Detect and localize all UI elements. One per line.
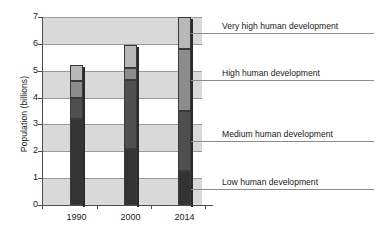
bar-1990[interactable] bbox=[70, 0, 83, 188]
y-tick-mark bbox=[38, 98, 42, 99]
x-axis-line bbox=[42, 205, 213, 206]
bar-2014[interactable] bbox=[178, 0, 191, 188]
y-tick-mark bbox=[38, 178, 42, 179]
y-tick-mark bbox=[38, 124, 42, 125]
population-stacked-bar-chart: Population (billions) 01234567 199020002… bbox=[0, 0, 378, 234]
bar-segment[interactable] bbox=[70, 65, 83, 81]
y-tick-label: 4 bbox=[4, 93, 38, 102]
y-tick-label: 5 bbox=[4, 66, 38, 75]
bar-segment[interactable] bbox=[70, 81, 83, 97]
y-tick-label: 2 bbox=[4, 146, 38, 155]
bar-segment[interactable] bbox=[124, 45, 137, 68]
bar-shadow bbox=[137, 47, 139, 207]
y-tick-mark bbox=[38, 17, 42, 18]
bar-segment[interactable] bbox=[124, 68, 137, 80]
y-tick-label: 6 bbox=[4, 39, 38, 48]
x-tick-label-2000: 2000 bbox=[109, 212, 153, 222]
y-tick-mark bbox=[38, 151, 42, 152]
bar-segment[interactable] bbox=[70, 119, 83, 205]
bar-shadow bbox=[83, 67, 85, 207]
y-axis-title: Population (billions) bbox=[19, 34, 29, 194]
x-tick-mark bbox=[97, 205, 98, 209]
x-tick-mark bbox=[205, 205, 206, 209]
x-tick-label-2014: 2014 bbox=[163, 212, 207, 222]
y-tick-label: 1 bbox=[4, 173, 38, 182]
callout-label: Low human development bbox=[222, 177, 318, 232]
y-tick-label: 3 bbox=[4, 119, 38, 128]
y-tick-mark bbox=[38, 44, 42, 45]
bar-2000[interactable] bbox=[124, 0, 137, 188]
bar-shadow bbox=[191, 19, 193, 207]
x-tick-mark bbox=[151, 205, 152, 209]
x-tick-label-1990: 1990 bbox=[55, 212, 99, 222]
y-tick-label: 7 bbox=[4, 12, 38, 21]
bar-segment[interactable] bbox=[124, 149, 137, 205]
bar-segment[interactable] bbox=[70, 98, 83, 119]
y-tick-label: 0 bbox=[4, 200, 38, 209]
bar-segment[interactable] bbox=[124, 80, 137, 148]
y-axis-line bbox=[42, 17, 43, 206]
y-tick-mark bbox=[38, 71, 42, 72]
x-tick-mark bbox=[42, 205, 43, 209]
bar-segment[interactable] bbox=[178, 111, 191, 171]
